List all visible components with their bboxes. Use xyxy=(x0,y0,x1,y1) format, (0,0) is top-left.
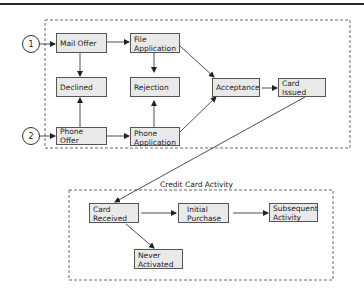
node-card-received-line1: Card xyxy=(93,205,135,214)
node-file-application-line2: Application xyxy=(134,44,176,53)
section-title-credit-card-activity: Credit Card Activity xyxy=(160,180,233,189)
node-never-activated: Never Activated xyxy=(134,249,183,269)
node-rejection-label: Rejection xyxy=(134,83,169,92)
node-rejection: Rejection xyxy=(130,77,180,97)
node-never-activated-line2: Activated xyxy=(138,260,179,269)
node-initial-purchase-line1: Initial xyxy=(187,205,225,214)
node-mail-offer: Mail Offer xyxy=(56,33,107,53)
node-card-issued-label: Card Issued xyxy=(282,79,322,97)
entry-point-2: 2 xyxy=(22,127,40,145)
node-card-received-line2: Received xyxy=(93,214,135,223)
node-acceptance-label: Acceptance xyxy=(216,83,260,92)
node-declined: Declined xyxy=(56,77,107,97)
node-declined-label: Declined xyxy=(60,83,93,92)
entry-point-1: 1 xyxy=(22,35,40,53)
node-phone-application-line1: Phone xyxy=(134,129,176,138)
entry-point-2-label: 2 xyxy=(28,132,33,141)
node-acceptance: Acceptance xyxy=(212,78,260,97)
node-initial-purchase: Initial Purchase xyxy=(178,203,229,223)
node-subsequent-activity-line1: Subsequent xyxy=(273,204,314,213)
node-file-application: File Application xyxy=(130,33,180,53)
node-phone-application: Phone Application xyxy=(130,127,180,146)
node-card-received: Card Received xyxy=(89,203,139,223)
node-file-application-line1: File xyxy=(134,35,176,44)
node-subsequent-activity: Subsequent Activity xyxy=(269,203,318,222)
node-subsequent-activity-line2: Activity xyxy=(273,213,314,222)
node-phone-offer: Phone Offer xyxy=(56,127,107,145)
node-mail-offer-label: Mail Offer xyxy=(60,39,96,48)
node-phone-offer-label: Phone Offer xyxy=(60,127,103,145)
node-card-issued: Card Issued xyxy=(278,78,326,97)
entry-point-1-label: 1 xyxy=(28,40,33,49)
node-phone-application-line2: Application xyxy=(134,138,176,147)
node-never-activated-line1: Never xyxy=(138,251,179,260)
node-initial-purchase-line2: Purchase xyxy=(187,214,225,223)
